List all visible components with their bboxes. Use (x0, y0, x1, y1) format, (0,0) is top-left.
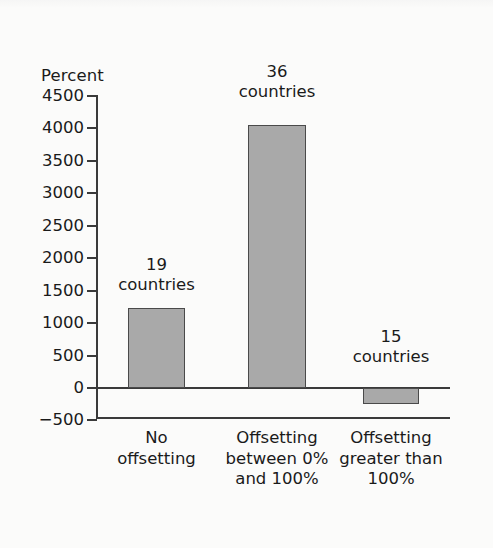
y-tick-label: 3000 (6, 185, 84, 202)
y-tick-mark (87, 160, 97, 162)
y-tick-mark (87, 95, 97, 97)
bar (248, 125, 306, 388)
y-tick-label: 0 (6, 380, 84, 397)
category-label: No offsetting (96, 428, 218, 469)
y-tick-label: −500 (6, 412, 84, 429)
page-edge-artifact (0, 0, 493, 8)
x-axis-line (96, 417, 450, 419)
category-label: Offsetting between 0% and 100% (216, 428, 338, 490)
bar-value-label: 36 countries (202, 62, 352, 102)
y-tick-label: 1000 (6, 315, 84, 332)
y-tick-label: 2500 (6, 218, 84, 235)
y-tick-label: 4000 (6, 120, 84, 137)
y-tick-mark (87, 387, 97, 389)
y-tick-label: 500 (6, 348, 84, 365)
y-tick-mark (87, 355, 97, 357)
y-tick-label: 4500 (6, 88, 84, 105)
y-tick-label: 1500 (6, 283, 84, 300)
y-axis-title: Percent (41, 66, 104, 85)
y-tick-mark (87, 419, 97, 421)
y-tick-mark (87, 192, 97, 194)
y-tick-mark (87, 225, 97, 227)
bar (363, 388, 419, 404)
y-tick-label: 3500 (6, 153, 84, 170)
category-label: Offsetting greater than 100% (330, 428, 452, 490)
chart-figure: Percent 45004000350030002500200015001000… (0, 0, 493, 548)
y-tick-mark (87, 322, 97, 324)
bar-value-label: 15 countries (316, 327, 466, 367)
bar-value-label: 19 countries (82, 255, 232, 295)
bar (128, 308, 185, 388)
y-tick-label: 2000 (6, 250, 84, 267)
y-tick-mark (87, 127, 97, 129)
